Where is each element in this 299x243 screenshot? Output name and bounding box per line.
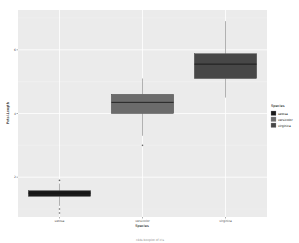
legend-label-virginica: virginica	[278, 124, 291, 128]
legend: Species setosaversicolorvirginica	[271, 104, 293, 128]
outlier-point	[142, 145, 144, 147]
legend-title: Species	[271, 104, 285, 108]
outlier-point	[59, 208, 61, 210]
legend-label-versicolor: versicolor	[278, 118, 293, 122]
x-axis-title: Species	[135, 224, 149, 228]
legend-swatch-virginica	[271, 123, 276, 128]
legend-label-setosa: setosa	[278, 112, 288, 116]
y-axis: 246	[14, 48, 18, 179]
caption: r4ds boxplot of iris	[136, 238, 164, 242]
legend-swatch-versicolor	[271, 117, 276, 122]
y-axis-title: Petal.Length	[6, 102, 10, 124]
boxplot-chart: 246 setosaversicolorvirginica Species Pe…	[0, 0, 299, 243]
y-tick-label: 2	[14, 175, 16, 179]
x-axis: setosaversicolorvirginica	[55, 217, 232, 223]
y-tick-label: 6	[14, 48, 16, 52]
x-tick-label: versicolor	[135, 219, 150, 223]
y-tick-label: 4	[14, 112, 16, 116]
outlier-point	[59, 180, 61, 182]
x-tick-label: virginica	[219, 219, 232, 223]
outlier-point	[59, 212, 61, 214]
legend-swatch-setosa	[271, 111, 276, 116]
x-tick-label: setosa	[55, 219, 65, 223]
